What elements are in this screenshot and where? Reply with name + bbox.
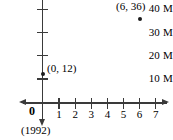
x-axis-tick-label: 7 [149,108,163,120]
x-axis-tick [139,98,140,109]
y-axis-tick [37,78,48,79]
data-point [138,17,142,21]
baseline-year-label: (1992) [21,124,50,136]
x-axis-tick-label: 4 [100,108,114,120]
y-axis-tick [37,55,48,56]
x-axis-tick [155,98,156,109]
x-axis-tick-label: 1 [52,108,66,120]
y-axis-tick [37,32,48,33]
origin-label: 0 [29,105,35,118]
scatter-plot-figure: 10 M20 M30 M40 M 1234567 0 (1992) (0, 12… [0,0,173,140]
x-axis-tick [75,98,76,109]
y-axis-tick-label: 30 M [138,27,173,38]
data-point-label: (0, 12) [47,62,76,74]
data-point-label: (6, 36) [116,0,145,12]
x-axis-tick [107,98,108,109]
x-axis-tick-label: 3 [84,108,98,120]
x-axis-left-arrow-icon [19,99,26,105]
y-axis-tick-label: 20 M [138,50,173,61]
x-axis-tick [91,98,92,109]
y-axis-tick [37,9,48,10]
x-axis-right-arrow-icon [162,99,169,105]
x-axis-line [23,102,167,103]
x-axis-tick-label: 2 [68,108,82,120]
x-axis-tick-label: 6 [133,108,147,120]
x-axis-tick-label: 5 [117,108,131,120]
x-axis-tick [123,98,124,109]
y-axis-tick-label: 10 M [138,73,173,84]
x-axis-tick [58,98,59,109]
data-point [41,72,45,76]
